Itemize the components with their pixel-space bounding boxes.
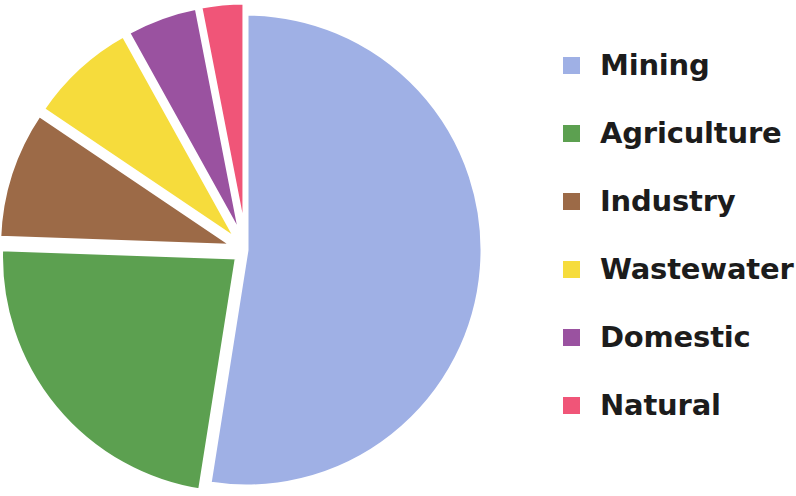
legend-label: Industry: [600, 184, 736, 218]
legend-item-natural[interactable]: Natural: [563, 388, 721, 422]
pie-chart-svg: [0, 0, 540, 496]
chart-page: MiningAgricultureIndustryWastewaterDomes…: [0, 0, 796, 496]
legend-item-wastewater[interactable]: Wastewater: [563, 252, 794, 286]
legend-swatch-mining: [563, 57, 580, 74]
legend-swatch-wastewater: [563, 261, 580, 278]
legend-label: Wastewater: [600, 252, 794, 286]
pie-chart: [0, 0, 540, 496]
pie-slice-mining[interactable]: [209, 13, 483, 487]
legend-swatch-industry: [563, 193, 580, 210]
legend-item-industry[interactable]: Industry: [563, 184, 736, 218]
pie-slice-agriculture[interactable]: [1, 249, 238, 491]
legend-label: Domestic: [600, 320, 751, 354]
legend-item-agriculture[interactable]: Agriculture: [563, 116, 782, 150]
legend-swatch-natural: [563, 397, 580, 414]
legend-item-mining[interactable]: Mining: [563, 48, 710, 82]
legend-label: Agriculture: [600, 116, 782, 150]
legend-item-domestic[interactable]: Domestic: [563, 320, 751, 354]
legend-label: Mining: [600, 48, 710, 82]
legend-swatch-agriculture: [563, 125, 580, 142]
chart-legend: MiningAgricultureIndustryWastewaterDomes…: [555, 0, 796, 496]
legend-label: Natural: [600, 388, 721, 422]
pie-slice-group: [0, 2, 483, 491]
legend-swatch-domestic: [563, 329, 580, 346]
